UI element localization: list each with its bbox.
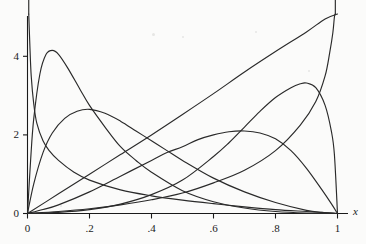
x-axis-title: x xyxy=(353,205,358,217)
figure-panel: 0 2 4 0 .2 .4 .6 .8 1 x xyxy=(0,0,366,244)
x-tick-label-0-4: .4 xyxy=(141,222,162,234)
x-tick-label-1: 1 xyxy=(327,222,348,234)
curve-beta-linear-rising xyxy=(28,14,338,214)
x-tick-label-0-8: .8 xyxy=(265,222,286,234)
y-tick-label-2: 2 xyxy=(0,128,19,140)
curve-beta-peak-0.90 xyxy=(28,83,338,214)
y-tick-label-4: 4 xyxy=(0,50,19,62)
x-tick-label-0: 0 xyxy=(17,222,38,234)
x-tick-label-0-6: .6 xyxy=(203,222,224,234)
chart-canvas xyxy=(0,0,366,244)
curve-beta-peak-0.20 xyxy=(28,109,338,213)
y-tick-label-0: 0 xyxy=(0,207,19,219)
axis-lines xyxy=(28,16,349,214)
x-tick-label-0-2: .2 xyxy=(79,222,100,234)
data-curves xyxy=(28,0,338,214)
x-axis-ticks xyxy=(28,214,338,219)
y-axis-ticks xyxy=(23,56,28,213)
curve-beta-peak-0.08 xyxy=(28,50,338,213)
